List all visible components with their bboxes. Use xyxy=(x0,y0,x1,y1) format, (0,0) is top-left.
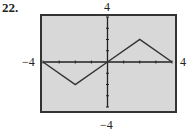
graph-window xyxy=(0,0,191,137)
